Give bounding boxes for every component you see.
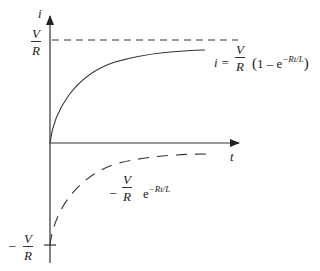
equation-denominator: R xyxy=(235,58,245,73)
tick-denominator: R xyxy=(23,247,33,262)
x-axis-label: t xyxy=(230,150,234,163)
graph-canvas xyxy=(0,0,320,271)
tick-label-neg-v-over-r: V R xyxy=(23,232,33,262)
exponent: −Rt/L xyxy=(282,54,304,64)
tick-minus-sign: – xyxy=(9,238,16,251)
tick-denominator: R xyxy=(31,42,41,57)
decay-minus-sign: – xyxy=(110,185,117,198)
decay-exponent: −Rt/L xyxy=(149,184,171,194)
tick-numerator: V xyxy=(31,27,41,42)
tick-numerator: V xyxy=(23,232,33,247)
decay-exp-term: e−Rt/L xyxy=(143,185,170,200)
y-axis-label: i xyxy=(38,7,42,20)
decay-denominator: R xyxy=(122,188,132,203)
decay-fraction: V R xyxy=(122,173,132,203)
equation-fraction: V R xyxy=(235,43,245,73)
growth-curve xyxy=(50,50,205,143)
decay-numerator: V xyxy=(122,173,132,188)
equation-numerator: V xyxy=(235,43,245,58)
paren-close: ) xyxy=(304,55,309,71)
tick-label-v-over-r: V R xyxy=(31,27,41,57)
one-minus-e: 1 – e xyxy=(257,56,282,71)
equation-body: (1 – e−Rt/L) xyxy=(252,55,309,71)
equation-lhs: i = xyxy=(214,56,230,69)
